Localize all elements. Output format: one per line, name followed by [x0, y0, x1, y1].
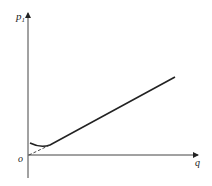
x-axis-label: q	[195, 157, 200, 168]
y-axis-label: p1	[15, 10, 25, 24]
characteristic-curve	[30, 77, 175, 146]
diagram-figure: p1 q o	[0, 0, 212, 186]
origin-label: o	[18, 153, 23, 164]
